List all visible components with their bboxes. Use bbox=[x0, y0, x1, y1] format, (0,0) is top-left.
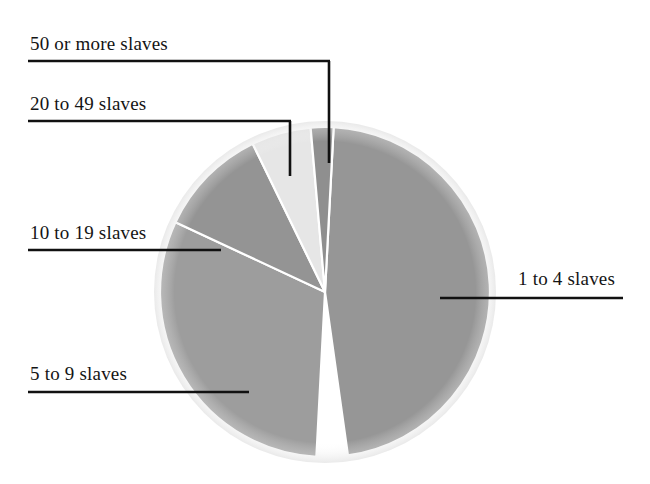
pie-chart-figure: 50 or more slaves20 to 49 slaves10 to 19… bbox=[0, 0, 650, 484]
pie-chart-svg: 50 or more slaves20 to 49 slaves10 to 19… bbox=[0, 0, 650, 484]
callout-label-twenty-to-fortynine: 20 to 49 slaves bbox=[30, 93, 146, 114]
pie-edge-halo bbox=[154, 121, 496, 463]
callout-label-five-to-nine: 5 to 9 slaves bbox=[30, 363, 127, 384]
callout-label-one-to-four: 1 to 4 slaves bbox=[518, 268, 615, 289]
callout-label-fifty-or-more: 50 or more slaves bbox=[30, 33, 168, 54]
callout-label-ten-to-nineteen: 10 to 19 slaves bbox=[30, 222, 146, 243]
